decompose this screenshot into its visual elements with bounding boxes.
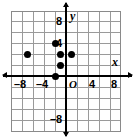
x-tick-label-pos8: 8 [111, 79, 117, 90]
x-tick-label-pos4: 4 [89, 79, 95, 90]
x-axis-arrow-left-icon [2, 72, 7, 78]
gridline-vertical [88, 12, 89, 131]
coordinate-plane-figure: x y –8 –4 O 4 8 8 4 –8 [0, 0, 135, 139]
y-axis-line [65, 3, 67, 136]
x-axis-label: x [112, 56, 118, 68]
gridline-vertical [110, 12, 111, 131]
gridline-vertical [99, 12, 100, 131]
y-axis-arrow-down-icon [63, 132, 69, 137]
y-axis-arrow-up-icon [63, 2, 69, 7]
data-point [68, 51, 75, 58]
x-axis-arrow-right-icon [128, 72, 133, 78]
y-tick-label-pos8: 8 [56, 16, 62, 27]
origin-label: O [69, 79, 77, 90]
x-tick-label-neg8: –8 [14, 79, 26, 90]
data-point [52, 40, 59, 47]
gridline-vertical [33, 12, 34, 131]
data-point [57, 51, 64, 58]
data-point [57, 62, 64, 69]
x-tick-label-neg4: –4 [36, 79, 48, 90]
x-axis-line [3, 75, 132, 77]
gridline-vertical [77, 12, 78, 131]
y-axis-label: y [70, 10, 75, 22]
gridline-vertical [22, 12, 23, 131]
data-point [52, 73, 59, 80]
data-point [24, 51, 31, 58]
y-tick-label-neg8: –8 [50, 114, 62, 125]
gridline-vertical [44, 12, 45, 131]
